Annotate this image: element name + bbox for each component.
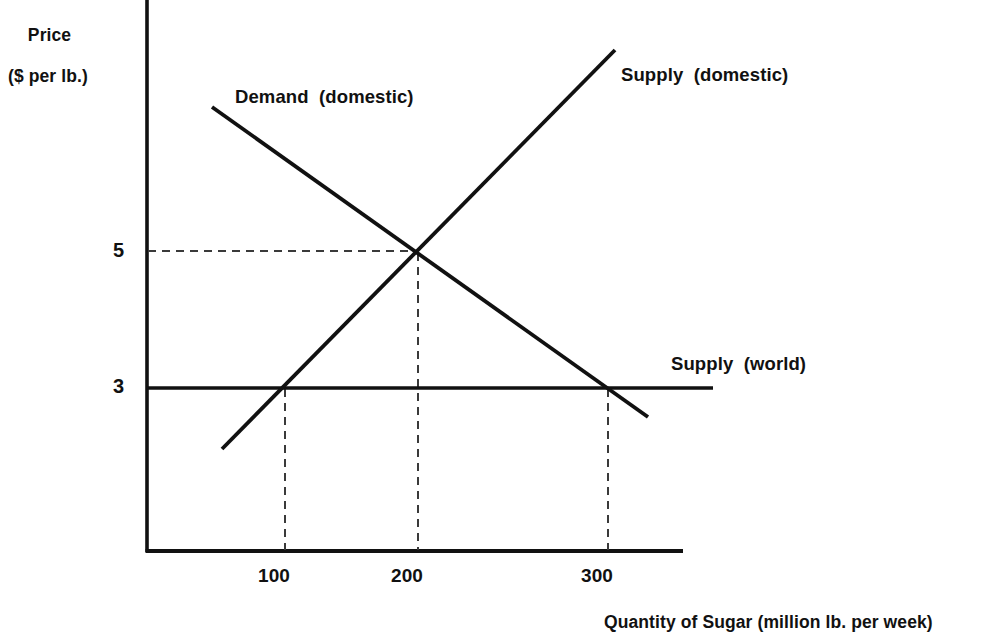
sugar-market-chart: Price ($ per lb.) 5 3 100 200 300 Demand…: [0, 0, 998, 638]
y-tick-label-3: 3: [113, 375, 124, 399]
x-tick-label-100: 100: [258, 565, 290, 587]
y-axis-title-line1: Price: [28, 25, 71, 45]
curve-label-supply-domestic: Supply (domestic): [621, 64, 788, 86]
y-axis-title-line2: ($ per lb.): [8, 66, 88, 87]
y-tick-label-5: 5: [113, 239, 124, 263]
x-axis-title: Quantity of Sugar (million lb. per week): [604, 612, 933, 633]
chart-plot-area: [0, 0, 998, 638]
curve-label-demand-domestic: Demand (domestic): [235, 86, 414, 108]
y-axis-title: Price ($ per lb.): [8, 4, 88, 128]
x-tick-label-200: 200: [391, 565, 423, 587]
curve-label-supply-world: Supply (world): [671, 353, 806, 375]
series-demand-domestic-line: [212, 107, 648, 417]
x-tick-label-300: 300: [581, 565, 613, 587]
